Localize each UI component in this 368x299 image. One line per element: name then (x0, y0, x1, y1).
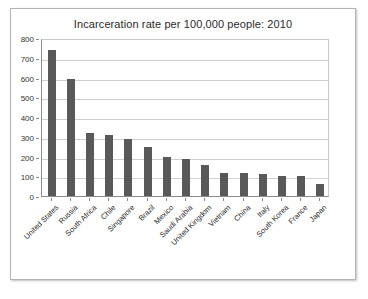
bar (67, 79, 75, 196)
x-tick-mark (319, 198, 320, 201)
x-tick-mark (89, 198, 90, 201)
y-tick-mark (36, 118, 39, 119)
chart-card: Incarceration rate per 100,000 people: 2… (10, 8, 356, 280)
bars-layer (42, 40, 328, 196)
y-tick-label: 600 (21, 74, 34, 83)
x-tick-mark (51, 198, 52, 201)
x-tick-mark (70, 198, 71, 201)
x-tick-mark (243, 198, 244, 201)
x-tick-mark (262, 198, 263, 201)
bar (144, 147, 152, 196)
x-tick-label: Japan (308, 203, 329, 224)
x-tick-label: China (232, 203, 252, 223)
y-tick-mark (36, 79, 39, 80)
bar (48, 50, 56, 196)
bar (105, 135, 113, 196)
x-tick-mark (127, 198, 128, 201)
y-tick-label: 800 (21, 35, 34, 44)
y-tick-mark (36, 158, 39, 159)
x-tick-mark (185, 198, 186, 201)
plot-area (41, 39, 329, 197)
bar (182, 159, 190, 196)
x-axis: United StatesRussiaSouth AfricaChileSing… (41, 198, 329, 278)
y-tick-label: 400 (21, 114, 34, 123)
x-tick-mark (147, 198, 148, 201)
bar (240, 173, 248, 196)
x-tick-mark (108, 198, 109, 201)
y-tick-mark (36, 59, 39, 60)
y-tick-mark (36, 98, 39, 99)
y-tick-label: 200 (21, 153, 34, 162)
bar (259, 174, 267, 196)
bar (201, 165, 209, 196)
bar (297, 176, 305, 196)
bar (316, 184, 324, 196)
y-tick-label: 500 (21, 94, 34, 103)
y-axis: 0100200300400500600700800 (11, 39, 39, 197)
y-tick-label: 700 (21, 54, 34, 63)
y-tick-label: 100 (21, 173, 34, 182)
y-tick-label: 0 (30, 193, 34, 202)
y-tick-mark (36, 177, 39, 178)
y-tick-mark (36, 197, 39, 198)
x-tick-label: United States (22, 203, 60, 241)
bar (86, 133, 94, 196)
bar (124, 139, 132, 196)
x-tick-mark (204, 198, 205, 201)
x-tick-mark (166, 198, 167, 201)
chart-title: Incarceration rate per 100,000 people: 2… (11, 18, 355, 30)
bar (163, 157, 171, 197)
y-tick-label: 300 (21, 133, 34, 142)
x-tick-mark (281, 198, 282, 201)
bar (220, 173, 228, 196)
y-tick-mark (36, 39, 39, 40)
y-tick-mark (36, 138, 39, 139)
x-tick-label: France (287, 203, 310, 226)
bar (278, 176, 286, 196)
x-tick-mark (223, 198, 224, 201)
x-tick-mark (300, 198, 301, 201)
